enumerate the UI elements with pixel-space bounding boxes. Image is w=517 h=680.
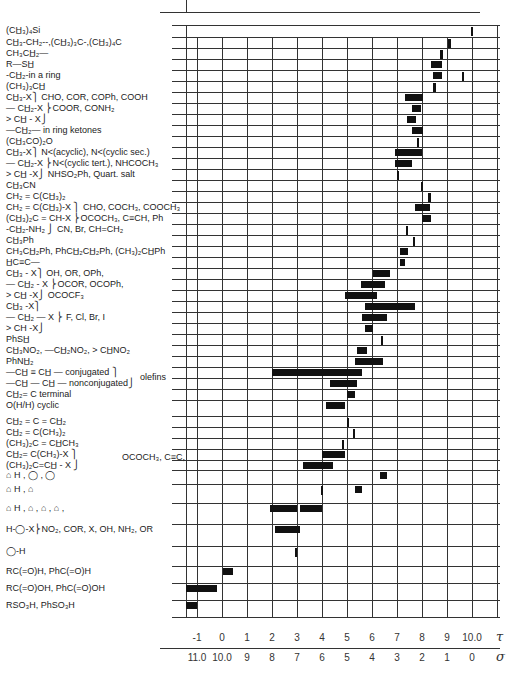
row-label: O(H/H) cyclic [6,400,59,411]
shift-range-bar [433,83,436,92]
shift-range-bar [395,160,413,167]
shift-range-bar [380,472,388,479]
top-rule [160,12,480,13]
shift-range-bar [353,429,355,438]
sigma-tick-label: 8 [269,652,275,663]
shift-range-bar [321,486,323,495]
shift-range-bar [362,314,387,321]
row-label: ◯-H [6,546,26,557]
row-label: PhSH̲ [6,334,30,345]
row-label: —CH̲ — CH̲ — nonconjugated⎭ [6,378,135,389]
row-label: CH̲₃CN [6,180,36,191]
tau-tick-label: 3 [294,632,300,643]
row-label: CH̲₃-X⎫ CHO, COR, COPh, COOH [6,92,148,103]
row-label: CH̲₃NO₂, —CH̲₂NO₂, > CH̲NO₂ [6,345,130,356]
row-label: —CH̲ ≡ CH̲ — conjugated ⎫ [6,367,119,378]
shift-range-bar [365,325,374,332]
tau-tick-label: -1 [193,632,202,643]
row-label: CH̲₂ = C(CH₃)₂ [6,427,65,438]
sigma-tick-label: 1 [444,652,450,663]
grid-vline [472,37,473,617]
tau-axis-symbol: τ [496,629,503,644]
shift-range-bar [406,226,409,235]
row-label: CH₂ = C(CH̲₃)₂ [6,191,65,202]
row-label: (CH₃)₃CH̲ [6,81,45,92]
shift-range-bar [422,215,431,222]
row-label: (CH₃)₂C = CH̲CH₃ [6,438,79,449]
shift-range-bar [303,462,333,469]
grid-right-border [497,25,498,617]
grid-vline [422,37,423,617]
shift-range-bar [471,27,474,36]
shift-range-bar [400,259,405,266]
grid-vline [447,37,448,617]
sigma-tick-label: 0 [469,652,475,663]
sigma-tick-label: 7 [294,652,300,663]
sigma-axis-symbol: σ [496,649,505,664]
tau-tick-label: 5 [344,632,350,643]
row-label: (CH̲₃)₄Si [6,25,40,36]
shift-range-bar [345,292,378,299]
shift-range-bar [421,182,423,191]
row-label: > CH -X⎭ [6,323,45,334]
shift-range-bar [397,171,399,180]
row-label: -CH̲₂-NH₂ ⎭ CN, Br, CH=CH₂ [6,224,123,235]
sigma-tick-label: 3 [394,652,400,663]
row-label: -CH̲₂-in a ring [6,70,61,81]
shift-range-bar [342,440,344,449]
row-label: CH̲₃-CH₂--,(CH̲₃)₃C-,(CH̲₃)₄C [6,37,122,48]
row-label: RC(=O)OH, PhC(=O)OH [6,583,105,594]
shift-range-bar [355,358,384,365]
sigma-tick-label: 5 [344,652,350,663]
grid-vline [197,37,198,617]
row-label: CH̲₃ -X⎫ [6,301,41,312]
row-label: R—SH̲ [6,59,34,70]
sigma-tick-label: 10.0 [212,652,231,663]
row-label: PhNH̲₂ [6,356,34,367]
row-label-group: olefins [140,372,166,383]
shift-range-bar [347,418,349,427]
sigma-tick-label: 9 [244,652,250,663]
shift-range-bar [295,548,297,557]
nmr-chart: (CH̲₃)₄SiCH̲₃-CH₂--,(CH̲₃)₃C-,(CH̲₃)₄CCH… [0,0,517,680]
shift-range-bar [412,105,421,112]
grid-vline [222,37,223,617]
tau-tick-label: 6 [369,632,375,643]
row-label: — CH̲₂ — X ⎬ F, Cl, Br, I [6,312,105,323]
shift-range-bar [415,204,430,211]
shift-range-bar [373,270,389,277]
row-label: CH₃CH̲₂Ph, PhCH̲₂CH̲₂Ph, (CH₃)₂CH̲Ph [6,246,165,257]
tau-tick-label: 0 [219,632,225,643]
row-label: (CH̲₃)₂C = CH-X ⎬OCOCH₃, C≡CH, Ph [6,213,163,224]
grid-vline [272,37,273,617]
grid-vline [347,37,348,617]
row-label: — CH̲₂-X ⎬COOR, CONH₂ [6,103,115,114]
row-label: H̲C≡C— [6,257,40,268]
shift-range-bar [272,369,362,376]
row-label: CH̲₂= C(CH₃)-X ⎫ [6,449,78,460]
sigma-tick-label: 11.0 [188,652,207,663]
shift-range-bar [428,193,431,202]
grid-vline [322,37,323,617]
shift-range-bar [357,347,367,354]
row-label: — CH̲₂-X ⎬N<(cyclic tert.), NHCOCH₃ [6,158,158,169]
shift-range-bar [413,237,415,246]
sigma-tick-label: 6 [319,652,325,663]
grid-vline [247,37,248,617]
tau-tick-label: 9 [444,632,450,643]
axis-divider [160,648,500,649]
shift-range-bar [300,505,323,512]
shift-range-bar [448,39,451,48]
tau-tick-label: 4 [319,632,325,643]
row-label: CH̲₃Ph [6,235,34,246]
shift-range-bar [347,391,355,398]
row-label: H-◯-X⎬NO₂, COR, X, OH, NH₂, OR [6,524,153,535]
shift-range-bar [322,451,345,458]
row-label: — CH̲₂ - X ⎬OCOR, OCOPh, [6,279,124,290]
shift-range-bar [417,138,419,147]
tau-tick-label: 2 [269,632,275,643]
grid-vline [397,37,398,617]
grid-hline [172,617,500,618]
shift-range-bar [400,248,409,255]
shift-range-bar [412,127,423,134]
